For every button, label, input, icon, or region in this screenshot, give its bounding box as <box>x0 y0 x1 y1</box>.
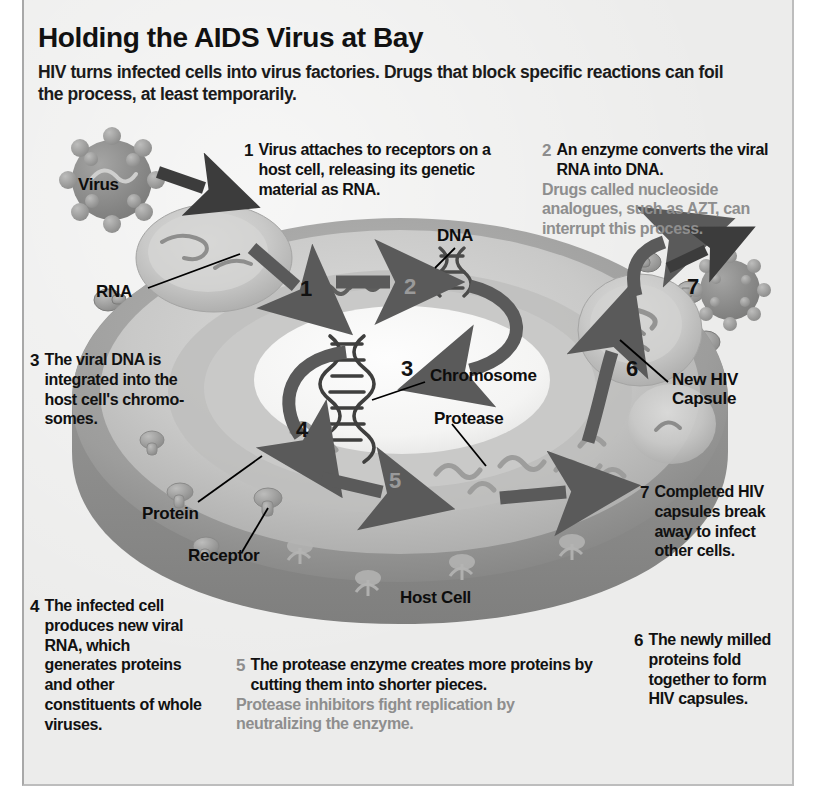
step-2-drug-note: Drugs called nucleoside analogues, such … <box>542 180 787 239</box>
step-2: 2 An enzyme converts the viral RNA into … <box>542 140 787 239</box>
step-2-number: 2 <box>542 140 551 161</box>
virus-particle-released <box>689 249 771 331</box>
diagram-numeral-2: 2 <box>404 274 416 300</box>
step-5-drug-note: Protease inhibitors fight replication by… <box>236 695 596 735</box>
page-subtitle: HIV turns infected cells into virus fact… <box>38 62 738 106</box>
infographic-page: Holding the AIDS Virus at Bay HIV turns … <box>0 0 816 793</box>
step-5: 5 The protease enzyme creates more prote… <box>236 655 596 734</box>
label-chromosome: Chromosome <box>430 366 537 385</box>
step-7: 7 Completed HIV capsules break away to i… <box>640 482 795 561</box>
diagram-numeral-4: 4 <box>296 417 308 443</box>
step-3: 3 The viral DNA is integrated into the h… <box>30 350 195 429</box>
label-protease: Protease <box>434 409 503 428</box>
step-3-number: 3 <box>30 350 39 371</box>
step-6: 6 The newly milled proteins fold togethe… <box>634 630 794 709</box>
step-1: 1 Virus attaches to receptors on a host … <box>244 140 519 199</box>
step-6-text: The newly milled proteins fold together … <box>648 630 794 709</box>
label-host-cell: Host Cell <box>400 588 471 607</box>
step-1-text: Virus attaches to receptors on a host ce… <box>258 140 519 199</box>
step-4: 4 The infected cell produces new viral R… <box>30 596 205 735</box>
label-dna: DNA <box>437 226 473 245</box>
diagram-numeral-1: 1 <box>300 276 312 302</box>
label-virus: Virus <box>78 175 119 194</box>
step-7-text: Completed HIV capsules break away to inf… <box>654 482 795 561</box>
step-5-text: The protease enzyme creates more protein… <box>250 655 596 695</box>
step-4-text: The infected cell produces new viral RNA… <box>44 596 205 735</box>
step-1-number: 1 <box>244 140 253 161</box>
step-3-text: The viral DNA is integrated into the hos… <box>44 350 195 429</box>
step-2-text: An enzyme converts the viral RNA into DN… <box>556 140 787 180</box>
step-6-number: 6 <box>634 630 643 651</box>
label-receptor: Receptor <box>188 546 259 565</box>
step-5-number: 5 <box>236 655 245 676</box>
diagram-numeral-7: 7 <box>687 274 699 300</box>
page-title: Holding the AIDS Virus at Bay <box>38 22 738 54</box>
diagram-numeral-6: 6 <box>626 356 638 382</box>
label-new-hiv-capsule: New HIV Capsule <box>672 370 738 408</box>
label-rna: RNA <box>96 282 132 301</box>
diagram-numeral-3: 3 <box>401 356 413 382</box>
step-7-number: 7 <box>640 482 649 503</box>
step-4-number: 4 <box>30 596 39 617</box>
label-protein: Protein <box>142 504 198 523</box>
diagram-numeral-5: 5 <box>389 468 401 494</box>
